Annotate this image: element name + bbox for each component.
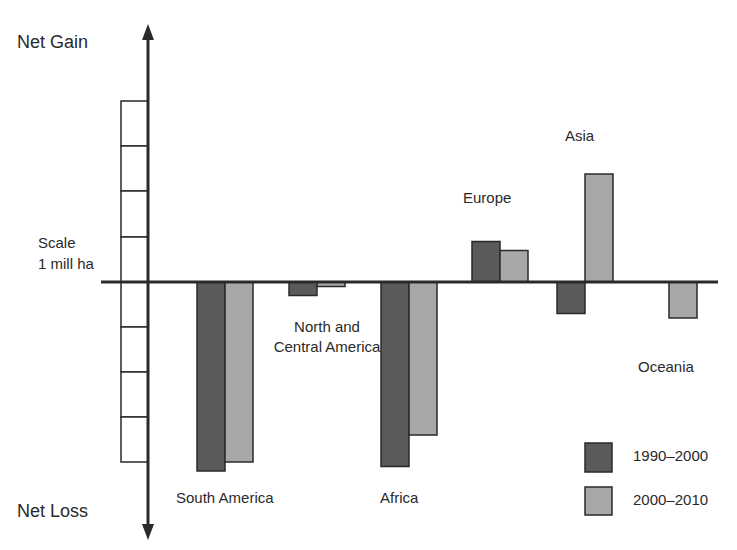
- category-label-asia: Asia: [565, 127, 594, 145]
- forest-change-chart: [0, 0, 737, 550]
- legend-swatch-2000-2010: [585, 487, 612, 515]
- bar-europe-1990-2000: [472, 242, 500, 283]
- net-loss-label: Net Loss: [17, 501, 88, 521]
- bar-asia-1990-2000: [557, 282, 585, 314]
- bar-africa-2000-2010: [409, 282, 437, 435]
- bar-europe-2000-2010: [500, 251, 528, 283]
- scale-label-line1: Scale: [38, 234, 76, 252]
- category-label-north-central-line1: North and: [262, 318, 392, 336]
- arrow-up-icon: [142, 24, 154, 40]
- category-label-south-america: South America: [176, 489, 274, 507]
- legend: [585, 443, 612, 515]
- bar-oceania-2000-2010: [669, 282, 697, 318]
- category-label-africa: Africa: [380, 489, 418, 507]
- net-gain-label: Net Gain: [17, 32, 88, 52]
- bar-south-america-2000-2010: [225, 282, 253, 462]
- bar-africa-1990-2000: [381, 282, 409, 467]
- category-label-europe: Europe: [463, 189, 511, 207]
- category-label-north-central-line2: Central America: [262, 338, 392, 356]
- legend-swatch-1990-2000: [585, 443, 612, 472]
- bar-asia-2000-2010: [585, 174, 613, 282]
- bar-south-america-1990-2000: [197, 282, 225, 471]
- scale-label-line2: 1 mill ha: [38, 255, 94, 273]
- legend-label-2000-2010: 2000–2010: [633, 491, 708, 509]
- category-label-oceania: Oceania: [638, 358, 694, 376]
- bar-north-and-central-america-1990-2000: [289, 282, 317, 296]
- legend-label-1990-2000: 1990–2000: [633, 447, 708, 465]
- arrow-down-icon: [142, 524, 154, 540]
